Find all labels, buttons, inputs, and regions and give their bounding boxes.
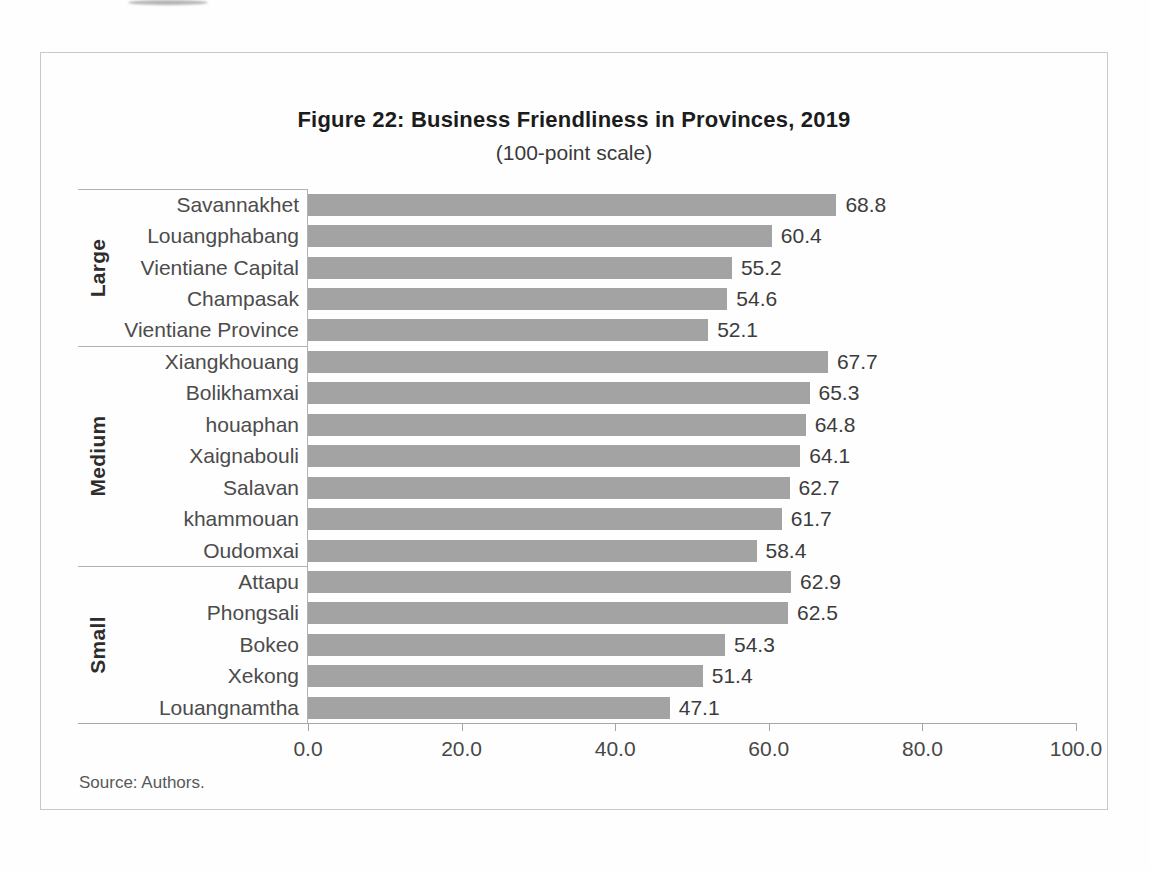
bar-row: 54.6 [308, 283, 1076, 314]
province-label: houaphan [118, 409, 308, 440]
bar-row: 47.1 [308, 692, 1076, 723]
source-note: Source: Authors. [79, 773, 205, 793]
bar-value-label: 60.4 [781, 224, 822, 248]
group-small: SmallAttapuPhongsaliBokeoXekongLouangnam… [78, 566, 1076, 723]
bar-row: 60.4 [308, 220, 1076, 251]
province-label: Xaignabouli [118, 441, 308, 472]
bar-value-label: 68.8 [845, 193, 886, 217]
figure-frame: Figure 22: Business Friendliness in Prov… [40, 52, 1108, 810]
bar-row: 55.2 [308, 252, 1076, 283]
bar [308, 508, 782, 530]
bar-value-label: 58.4 [766, 539, 807, 563]
group-large: LargeSavannakhetLouangphabangVientiane C… [78, 189, 1076, 346]
group-labels-block: LargeSavannakhetLouangphabangVientiane C… [78, 189, 308, 346]
province-label: Xekong [118, 661, 308, 692]
x-axis-tick-label: 0.0 [293, 737, 322, 761]
x-axis-tick [615, 724, 616, 731]
x-axis-tick-label: 20.0 [441, 737, 482, 761]
group-separator-line [78, 189, 308, 190]
bar-value-label: 55.2 [741, 256, 782, 280]
bar [308, 351, 828, 373]
x-axis-tick-label: 60.0 [748, 737, 789, 761]
province-label: Louangnamtha [118, 692, 308, 723]
province-label: Vientiane Capital [118, 252, 308, 283]
bars-column: 68.860.455.254.652.1 [308, 189, 1076, 346]
group-separator-line [78, 566, 308, 567]
bar-row: 64.8 [308, 409, 1076, 440]
x-axis-tick-label: 100.0 [1050, 737, 1103, 761]
province-labels-column: AttapuPhongsaliBokeoXekongLouangnamtha [118, 566, 308, 723]
province-label: Louangphabang [118, 220, 308, 251]
bar-value-label: 62.7 [799, 476, 840, 500]
x-axis-tick [462, 724, 463, 731]
bar-value-label: 52.1 [717, 318, 758, 342]
bar-value-label: 64.1 [809, 444, 850, 468]
group-label: Medium [86, 416, 110, 497]
bar [308, 477, 790, 499]
scanned-page: Figure 22: Business Friendliness in Prov… [0, 0, 1150, 871]
province-label: Phongsali [118, 598, 308, 629]
bar [308, 571, 791, 593]
province-label: Oudomxai [118, 535, 308, 566]
group-separator-line [78, 346, 308, 347]
province-label: khammouan [118, 503, 308, 534]
province-label: Bolikhamxai [118, 378, 308, 409]
bar-row: 64.1 [308, 441, 1076, 472]
bar [308, 445, 800, 467]
province-label: Attapu [118, 566, 308, 597]
bar [308, 194, 836, 216]
bar [308, 602, 788, 624]
bar-row: 62.5 [308, 598, 1076, 629]
bar-row: 58.4 [308, 535, 1076, 566]
bar-row: 51.4 [308, 661, 1076, 692]
group-label: Small [86, 616, 110, 674]
bar-value-label: 47.1 [679, 696, 720, 720]
province-label: Savannakhet [118, 189, 308, 220]
bar [308, 665, 703, 687]
bar [308, 634, 725, 656]
bar-row: 62.9 [308, 566, 1076, 597]
bar-value-label: 62.9 [800, 570, 841, 594]
x-axis-tick [1076, 724, 1077, 731]
province-label: Champasak [118, 283, 308, 314]
bar [308, 540, 757, 562]
bar-row: 62.7 [308, 472, 1076, 503]
province-label: Bokeo [118, 629, 308, 660]
bar-row: 61.7 [308, 503, 1076, 534]
scan-artifact [128, 0, 208, 5]
group-label-cell: Large [78, 189, 118, 346]
bar-row: 65.3 [308, 378, 1076, 409]
bar-value-label: 64.8 [815, 413, 856, 437]
bar-value-label: 65.3 [819, 381, 860, 405]
bar [308, 225, 772, 247]
group-label-cell: Small [78, 566, 118, 723]
x-axis-tick [769, 724, 770, 731]
bar-value-label: 62.5 [797, 601, 838, 625]
bar [308, 288, 727, 310]
bar-value-label: 67.7 [837, 350, 878, 374]
province-labels-column: SavannakhetLouangphabangVientiane Capita… [118, 189, 308, 346]
x-axis-tick-label: 40.0 [595, 737, 636, 761]
figure-subtitle: (100-point scale) [41, 141, 1107, 165]
label-divider-line [307, 189, 308, 723]
plot-area: LargeSavannakhetLouangphabangVientiane C… [78, 189, 1076, 723]
province-labels-column: XiangkhouangBolikhamxaihouaphanXaignabou… [118, 346, 308, 566]
x-axis-tick-label: 80.0 [902, 737, 943, 761]
group-labels-block: MediumXiangkhouangBolikhamxaihouaphanXai… [78, 346, 308, 566]
group-label: Large [86, 238, 110, 297]
group-labels-block: SmallAttapuPhongsaliBokeoXekongLouangnam… [78, 566, 308, 723]
bar-value-label: 54.3 [734, 633, 775, 657]
x-axis-tick [922, 724, 923, 731]
x-axis-tick [308, 724, 309, 731]
bars-column: 62.962.554.351.447.1 [308, 566, 1076, 723]
province-label: Vientiane Province [118, 315, 308, 346]
bar [308, 382, 810, 404]
bar-value-label: 54.6 [736, 287, 777, 311]
bar-value-label: 51.4 [712, 664, 753, 688]
group-medium: MediumXiangkhouangBolikhamxaihouaphanXai… [78, 346, 1076, 566]
bar [308, 257, 732, 279]
group-label-cell: Medium [78, 346, 118, 566]
bar-row: 68.8 [308, 189, 1076, 220]
bar-row: 67.7 [308, 346, 1076, 377]
bar-row: 52.1 [308, 315, 1076, 346]
